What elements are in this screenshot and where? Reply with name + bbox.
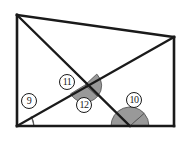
- top-side-line: [17, 15, 174, 37]
- angle-label-11: 11: [59, 74, 75, 90]
- transversal-strokes: [17, 15, 174, 126]
- angle-label-12: 12: [76, 97, 92, 113]
- angle-label-9: 9: [21, 93, 37, 109]
- angle-label-10: 10: [126, 92, 142, 108]
- geometry-figure: 9 11 12 10: [0, 0, 188, 141]
- ascending-transversal-line: [17, 37, 174, 126]
- figure-strokes: [17, 15, 174, 126]
- geometry-canvas: [0, 0, 188, 141]
